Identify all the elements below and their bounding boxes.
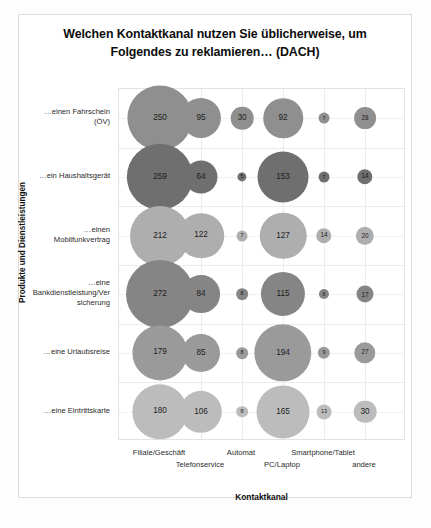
bubble-value-label: 92: [278, 114, 287, 122]
bubble[interactable]: 14: [357, 169, 372, 184]
bubble[interactable]: 9: [318, 347, 330, 359]
bubble-value-label: 13: [321, 409, 327, 414]
y-axis-tick-label: …einenMobilfunkvertrag: [14, 225, 110, 245]
y-axis-labels: …einen Fahrschein(ÖV)…ein Haushaltsgerät…: [18, 88, 114, 440]
y-axis-tick-line: sicherung: [14, 298, 110, 308]
y-axis-tick-line: …einen Fahrschein: [14, 107, 110, 117]
bubble[interactable]: 153: [258, 152, 309, 203]
bubble-value-label: 14: [320, 232, 327, 238]
bubble-value-label: 20: [361, 232, 368, 238]
y-axis-tick-line: (ÖV): [14, 117, 110, 127]
y-axis-tick-label: …einen Fahrschein(ÖV): [14, 107, 110, 127]
y-axis-tick-label: …eine Urlaubsreise: [14, 347, 110, 357]
bubble[interactable]: 7: [237, 230, 248, 241]
bubble-value-label: 180: [153, 408, 167, 416]
bubble-value-label: 14: [361, 174, 368, 180]
bubble[interactable]: 8: [236, 406, 248, 418]
bubble-value-label: 106: [194, 408, 208, 416]
bubble-value-label: 8: [241, 292, 244, 297]
bubble[interactable]: 127: [260, 212, 307, 259]
bubble-value-label: 8: [241, 350, 244, 355]
bubble[interactable]: 7: [319, 172, 330, 183]
x-axis-tick-label: andere: [352, 460, 376, 469]
y-axis-tick-label: …eineBankdienstleistung/Versicherung: [14, 278, 110, 308]
bubble-value-label: 250: [153, 114, 167, 122]
y-axis-tick-line: …einen: [14, 225, 110, 235]
bubble-value-label: 194: [276, 349, 290, 357]
y-axis-tick-line: …eine: [14, 278, 110, 288]
bubble-value-label: 153: [276, 173, 290, 181]
bubble[interactable]: 30: [231, 107, 254, 130]
bubble[interactable]: 259: [127, 144, 193, 210]
bubble[interactable]: 115: [261, 272, 305, 316]
y-axis-tick-label: …ein Haushaltsgerät: [14, 171, 110, 181]
chart-title-line-1: Welchen Kontaktkanal nutzen Sie üblicher…: [28, 26, 402, 44]
chart-title-line-2: Folgendes zu reklamieren… (DACH): [28, 44, 402, 62]
y-axis-tick-label: …eine Eintrittskarte: [14, 406, 110, 416]
bubble-value-label: 259: [153, 173, 167, 181]
bubble-value-label: 127: [276, 232, 290, 240]
bubble-value-label: 95: [196, 114, 205, 122]
bubble-value-label: 84: [196, 290, 205, 298]
bubble-value-label: 85: [196, 349, 205, 357]
plot-area: 2509530927282596451537142121227127142027…: [118, 88, 405, 440]
bubble[interactable]: 64: [185, 161, 218, 194]
bubble-layer: 2509530927282596451537142121227127142027…: [119, 89, 404, 439]
bubble[interactable]: 7: [319, 113, 330, 124]
bubble-value-label: 115: [276, 290, 289, 298]
bubble[interactable]: 122: [178, 213, 224, 259]
bubble-value-label: 27: [361, 350, 368, 356]
bubble[interactable]: 27: [354, 342, 375, 363]
bubble-value-label: 179: [153, 349, 167, 357]
bubble-value-label: 64: [196, 173, 205, 181]
bubble[interactable]: 13: [317, 404, 332, 419]
bubble-value-label: 9: [322, 350, 325, 355]
bubble[interactable]: 85: [182, 334, 220, 372]
bubble-value-label: 6: [323, 292, 326, 297]
bubble[interactable]: 20: [356, 226, 374, 244]
bubble[interactable]: 106: [180, 390, 222, 432]
bubble-value-label: 30: [360, 408, 369, 416]
bubble-value-label: 17: [361, 291, 368, 297]
chart-title: Welchen Kontaktkanal nutzen Sie üblicher…: [28, 26, 402, 62]
bubble[interactable]: 5: [237, 172, 246, 181]
bubble[interactable]: 179: [132, 325, 187, 380]
bubble[interactable]: 17: [357, 286, 374, 303]
chart-page: Welchen Kontaktkanal nutzen Sie üblicher…: [0, 0, 431, 528]
x-axis-tick-label: PC/Laptop: [264, 460, 300, 469]
bubble[interactable]: 30: [354, 400, 377, 423]
bubble[interactable]: 14: [316, 228, 331, 243]
bubble[interactable]: 165: [257, 385, 310, 438]
bubble[interactable]: 194: [254, 324, 311, 381]
bubble[interactable]: 8: [236, 288, 248, 300]
bubble-value-label: 7: [322, 174, 325, 179]
bubble-value-label: 165: [276, 408, 290, 416]
bubble-value-label: 122: [194, 232, 208, 240]
bubble[interactable]: 28: [354, 107, 376, 129]
y-axis-tick-line: Mobilfunkvertrag: [14, 235, 110, 245]
x-axis-tick-label: Automat: [227, 448, 255, 457]
bubble[interactable]: 92: [263, 99, 303, 139]
bubble-value-label: 7: [240, 233, 243, 238]
y-axis-tick-line: Bankdienstleistung/Ver: [14, 288, 110, 298]
bubble[interactable]: 6: [319, 289, 329, 299]
bubble[interactable]: 95: [181, 98, 221, 138]
bubble-value-label: 28: [361, 115, 368, 121]
x-axis-tick-label: Telefonservice: [176, 460, 225, 469]
y-axis-tick-line: …eine Eintrittskarte: [14, 406, 110, 416]
bubble-value-label: 5: [241, 174, 244, 179]
bubble[interactable]: 8: [236, 347, 248, 359]
bubble-value-label: 30: [237, 114, 246, 122]
bubble-value-label: 8: [241, 409, 244, 414]
bubble-value-label: 7: [322, 116, 325, 121]
y-axis-tick-line: …ein Haushaltsgerät: [14, 171, 110, 181]
x-axis-tick-label: Filiale/Geschäft: [133, 448, 185, 457]
bubble-value-label: 272: [153, 290, 167, 298]
bubble-value-label: 212: [153, 232, 167, 240]
x-axis-tick-label: Smartphone/Tablet: [291, 448, 355, 457]
y-axis-tick-line: …eine Urlaubsreise: [14, 347, 110, 357]
bubble[interactable]: 84: [182, 275, 220, 313]
x-axis-title: Kontaktkanal: [118, 492, 405, 502]
